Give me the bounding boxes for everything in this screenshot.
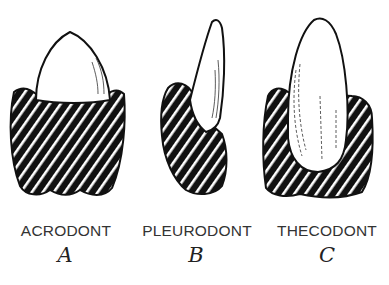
acrodont-crown <box>36 32 110 103</box>
thecodont-label: THECODONT <box>272 222 382 240</box>
figure-letter-b: B <box>181 243 211 267</box>
figure-letter-a: A <box>50 243 80 267</box>
acrodont-label: ACRODONT <box>14 222 118 240</box>
pleurodont-label: PLEURODONT <box>136 222 258 240</box>
acrodont-bone <box>11 89 125 195</box>
figure-letter-c: C <box>312 243 342 267</box>
thecodont-illustration <box>263 19 372 198</box>
pleurodont-illustration <box>161 20 226 194</box>
acrodont-illustration <box>11 32 125 195</box>
thecodont-tooth <box>288 19 348 172</box>
